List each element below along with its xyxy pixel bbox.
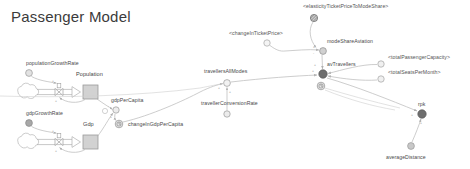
label-gdpPerCapita: gdpPerCapita [111,98,143,103]
node-totalPassengerCapacity[interactable] [378,61,384,67]
label-population: Population [76,72,103,78]
gdp-flow-group[interactable] [18,133,98,149]
polarity-mark: + [411,113,413,117]
node-gdpGrowthRate[interactable] [26,120,33,127]
polarity-mark: + [55,99,57,103]
label-totalSeatsPerMonth: <totalSeatsPerMonth> [388,70,441,75]
label-avTravellers: avTravellers [327,62,356,67]
label-elasticityTicketPriceToModeShare: <elasticityTicketPriceToModeShare> [303,4,388,9]
node-changeInTicketPrice[interactable] [264,40,270,46]
link-travellersAllModes-avTravellers [231,75,317,82]
node-averageDistance[interactable] [408,143,415,150]
stock-gdp[interactable] [83,135,98,149]
polarity-mark: - [313,51,314,55]
link-avTravellers-fan-a [325,88,400,108]
polarity-mark: + [52,79,54,83]
link-changeInTicketPrice-modeShareAviation [270,46,319,52]
node-travellersAllModes[interactable] [224,80,231,87]
label-changeInGdpPerCapita: changeInGdpPerCapita [128,122,183,127]
label-travellerConversionRate: travellerConversionRate [201,101,258,106]
node-gdpPerCapita[interactable] [113,107,119,113]
link-avTravellers-fan-b [325,90,395,110]
label-rpk: rpk [418,102,425,107]
label-populationGrowthRate: populationGrowthRate [26,61,79,66]
link-elasticity-modeShareAviation [310,22,316,48]
label-modeShareAviation: modeShareAviation [327,39,373,44]
node-avTravellers-valve[interactable] [317,82,325,90]
polarity-mark: + [312,69,314,73]
polarity-mark: - [108,104,109,108]
label-gdpGrowthRate: gdpGrowthRate [26,111,63,116]
node-populationGrowthRate[interactable] [26,70,33,77]
polarity-mark: + [313,45,315,49]
node-gdpPerCapita-inlet[interactable] [102,108,107,113]
population-source-cloud [18,83,39,98]
link-gdp-valve [60,148,86,153]
label-averageDistance: averageDistance [386,155,426,160]
polarity-mark: + [55,149,57,153]
link-avTravellers-rpk [327,78,417,111]
gdp-source-cloud [18,133,39,148]
node-totalSeatsPerMonth[interactable] [378,76,384,82]
label-gdp: Gdp [83,122,94,128]
link-modeShareAviation-avTravellers [322,55,323,69]
polarity-mark: + [314,63,316,67]
node-travellerConversionRate[interactable] [224,111,230,117]
stock-population[interactable] [83,85,98,99]
node-avTravellers[interactable] [319,70,327,78]
node-elasticityTicketPriceToModeShare[interactable] [310,14,317,21]
node-changeInGdpPerCapita[interactable] [115,120,123,128]
node-modeShareAviation[interactable] [320,48,327,55]
link-population-valve [60,98,86,103]
label-travellersAllModes: travellersAllModes [204,69,247,74]
diagram-canvas[interactable]: + + + + - + + + + + - + [0,0,470,169]
link-totalSeatsPerMonth-avTravellers [328,76,377,80]
node-rpk[interactable] [418,110,426,118]
polarity-mark: + [229,90,231,94]
polarity-mark: + [110,115,112,119]
label-totalPassengerCapacity: <totalPassengerCapacity> [388,55,450,60]
polarity-mark: + [420,121,422,125]
polarity-mark: + [218,86,220,90]
polarity-mark: + [52,129,54,133]
link-gdpPerCapita-change [115,114,116,120]
label-changeInTicketPrice: <changeInTicketPrice> [229,31,283,36]
